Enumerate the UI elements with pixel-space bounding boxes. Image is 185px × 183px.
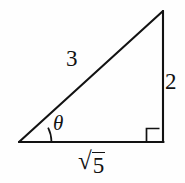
angle-arc-icon [48, 128, 51, 142]
triangle-diagram: 3 2 θ √ 5 [0, 0, 185, 183]
radicand-overbar: 5 [92, 152, 106, 177]
right-angle-marker-icon [147, 129, 160, 142]
angle-theta-label: θ [53, 113, 63, 134]
opposite-side-length-label: 2 [165, 70, 177, 93]
radical-sign-icon: √ [78, 149, 92, 173]
hypotenuse-line [19, 11, 163, 142]
radical-expression: √ 5 [78, 149, 105, 177]
hypotenuse-length-label: 3 [66, 47, 78, 70]
adjacent-side-length-label: √ 5 [78, 149, 105, 177]
radicand-value: 5 [93, 154, 105, 177]
